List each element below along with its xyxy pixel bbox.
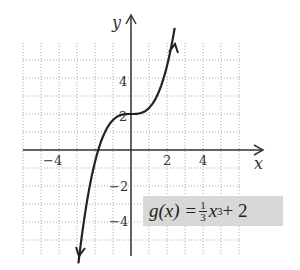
equation-constant: + 2 <box>223 200 248 222</box>
y-axis-label: y <box>111 13 122 32</box>
equation-fraction: 1 3 <box>199 200 207 223</box>
fraction-denominator: 3 <box>200 212 206 223</box>
equation-label: g(x) = 1 3 x3 + 2 <box>143 196 283 226</box>
tick-x-2: 2 <box>163 153 171 168</box>
x-axis-label: x <box>254 154 263 173</box>
equation-lhs: g(x) = <box>149 200 197 222</box>
tick-x-4: 4 <box>199 153 207 168</box>
graph-canvas: y x −4 2 4 4 2 −2 −4 <box>0 0 300 270</box>
function-graph: y x −4 2 4 4 2 −2 −4 g(x) = 1 3 x3 + 2 <box>0 0 300 270</box>
equation-variable: x <box>209 200 217 222</box>
tick-x-neg4: −4 <box>43 153 62 168</box>
tick-y-neg4: −4 <box>109 214 128 229</box>
fraction-numerator: 1 <box>199 200 207 212</box>
tick-y-2: 2 <box>119 109 127 124</box>
tick-y-neg2: −2 <box>109 179 128 194</box>
tick-y-4: 4 <box>119 74 127 89</box>
